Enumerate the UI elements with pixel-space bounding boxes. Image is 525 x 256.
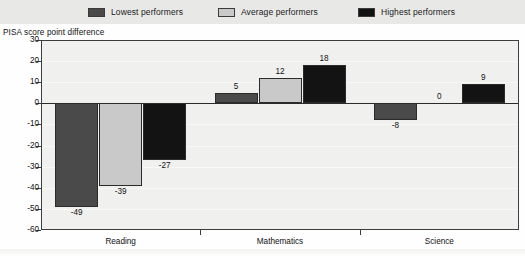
gridline xyxy=(42,209,518,210)
legend-label: Average performers xyxy=(241,7,318,17)
square-swatch-icon xyxy=(218,8,235,17)
chart-screenshot: Lowest performers Average performers Hig… xyxy=(0,0,525,256)
bar-value-label: 18 xyxy=(303,54,346,63)
scan-artifact xyxy=(0,249,525,256)
x-category-label: Reading xyxy=(105,237,136,246)
x-category-label: Mathematics xyxy=(257,237,303,246)
bar-value-label: -39 xyxy=(99,187,142,196)
bar xyxy=(303,65,346,103)
bar-value-label: -49 xyxy=(55,208,98,217)
bar-value-label: 5 xyxy=(215,82,258,91)
y-tick-label: -20 xyxy=(3,141,39,150)
bar xyxy=(215,93,258,104)
square-swatch-icon xyxy=(358,8,375,17)
y-tick-label: 0 xyxy=(3,98,39,107)
bar-value-label: 9 xyxy=(462,73,505,82)
bar xyxy=(143,103,186,160)
x-tick-mark xyxy=(360,230,361,235)
y-tick-label: 10 xyxy=(3,77,39,86)
bar xyxy=(462,84,505,103)
y-tick-label: 20 xyxy=(3,56,39,65)
bar xyxy=(55,103,98,206)
bar xyxy=(99,103,142,185)
y-tick-label: -50 xyxy=(3,204,39,213)
bar-value-label: -8 xyxy=(374,121,417,130)
x-category-label: Science xyxy=(425,237,454,246)
legend-item-average-performers: Average performers xyxy=(218,6,318,18)
bar xyxy=(374,103,417,120)
legend-item-lowest-performers: Lowest performers xyxy=(88,6,183,18)
legend-label: Highest performers xyxy=(381,7,455,17)
x-tick-mark xyxy=(200,230,201,235)
bar-value-label: 0 xyxy=(418,92,461,101)
bar-value-label: -27 xyxy=(143,161,186,170)
legend-item-highest-performers: Highest performers xyxy=(358,6,455,18)
bar-value-label: 12 xyxy=(259,67,302,76)
y-tick-label: -10 xyxy=(3,119,39,128)
chart-legend: Lowest performers Average performers Hig… xyxy=(0,0,525,24)
y-tick-label: -60 xyxy=(3,225,39,234)
gridline xyxy=(42,61,518,62)
y-tick-label: -30 xyxy=(3,162,39,171)
y-tick-label: 30 xyxy=(3,35,39,44)
bar xyxy=(259,78,302,103)
y-tick-label: -40 xyxy=(3,183,39,192)
legend-label: Lowest performers xyxy=(111,7,183,17)
square-swatch-icon xyxy=(88,8,105,17)
